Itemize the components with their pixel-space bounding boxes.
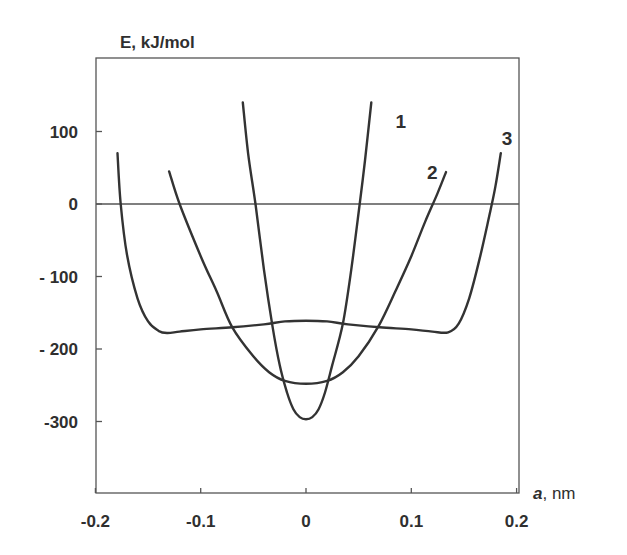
- curve-2: [169, 171, 446, 383]
- x-tick-label: -0.1: [186, 512, 215, 531]
- y-axis-title: E, kJ/mol: [120, 33, 195, 52]
- x-tick-label: -0.2: [81, 512, 110, 531]
- y-tick-label: -300: [44, 413, 78, 432]
- x-tick-label: 0.2: [505, 512, 529, 531]
- curve-label-1: 1: [396, 111, 407, 132]
- curve-labels: 123: [396, 111, 513, 183]
- x-axis-title: a, nm: [533, 484, 576, 503]
- y-tick-label: 100: [50, 123, 78, 142]
- x-axis-unit: , nm: [542, 484, 575, 503]
- x-tick-label: 0: [301, 512, 310, 531]
- x-tick-label: 0.1: [399, 512, 423, 531]
- y-axis-ticks: 1000- 100- 200-300: [39, 123, 102, 432]
- curves: [118, 103, 501, 420]
- x-axis-symbol: a: [533, 484, 542, 503]
- plot-frame: [96, 58, 519, 493]
- curve-label-3: 3: [502, 128, 513, 149]
- energy-chart: E, kJ/mol 1000- 100- 200-300 -0.2-0.100.…: [0, 0, 627, 555]
- y-tick-label: - 200: [39, 340, 78, 359]
- curve-label-2: 2: [427, 162, 438, 183]
- curve-1: [243, 103, 371, 420]
- y-tick-label: - 100: [39, 268, 78, 287]
- x-axis-ticks: -0.2-0.100.10.2: [81, 488, 529, 531]
- y-tick-label: 0: [69, 195, 78, 214]
